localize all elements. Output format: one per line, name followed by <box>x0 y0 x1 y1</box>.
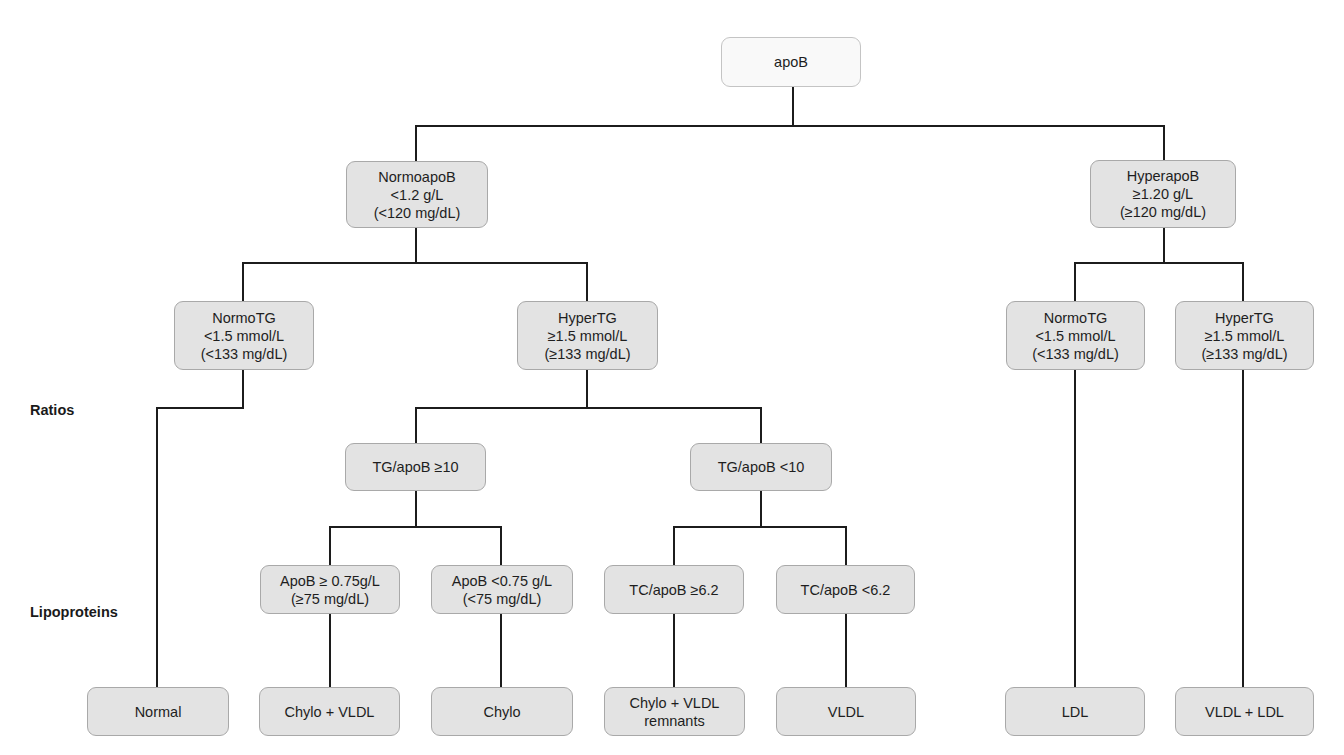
node-label: Chylo + VLDL <box>630 694 720 712</box>
node-threshold-si: <1.5 mmol/L <box>1035 327 1115 345</box>
node-normotg-right: NormoTG <1.5 mmol/L (<133 mg/dL) <box>1006 301 1145 370</box>
node-threshold-conventional: (≥120 mg/dL) <box>1120 203 1206 221</box>
connector-lines <box>0 0 1344 755</box>
node-label: HyperTG <box>558 309 617 327</box>
node-label: ApoB <0.75 g/L <box>452 572 552 590</box>
node-threshold-si: <1.2 g/L <box>391 186 444 204</box>
node-apob-root: apoB <box>721 37 861 87</box>
node-normoapob: NormoapoB <1.2 g/L (<120 mg/dL) <box>346 161 488 228</box>
lipoproteins-label: Lipoproteins <box>30 604 118 620</box>
decision-tree-diagram: Ratios Lipoproteins apoB NormoapoB <1.2 … <box>0 0 1344 755</box>
result-vldl: VLDL <box>776 687 916 736</box>
node-threshold-conventional: (<120 mg/dL) <box>374 204 461 222</box>
node-threshold-conventional: (<75 mg/dL) <box>463 590 542 608</box>
node-tc-apob-lt62: TC/apoB <6.2 <box>776 565 915 614</box>
node-label: NormoTG <box>212 309 276 327</box>
node-label: TG/apoB ≥10 <box>372 458 458 476</box>
node-tc-apob-ge62: TC/apoB ≥6.2 <box>604 565 744 614</box>
node-label: NormoapoB <box>378 168 455 186</box>
node-label: TC/apoB ≥6.2 <box>629 581 718 599</box>
node-label: HyperTG <box>1215 309 1274 327</box>
node-label-line2: remnants <box>644 712 704 730</box>
node-threshold-si: ≥1.5 mmol/L <box>1205 327 1285 345</box>
node-label: HyperapoB <box>1127 167 1200 185</box>
node-hypertg-left: HyperTG ≥1.5 mmol/L (≥133 mg/dL) <box>517 301 658 370</box>
node-hyperapob: HyperapoB ≥1.20 g/L (≥120 mg/dL) <box>1090 160 1236 228</box>
result-chylo-vldl-remnants: Chylo + VLDL remnants <box>604 687 745 736</box>
node-label: VLDL + LDL <box>1205 703 1284 721</box>
node-threshold-conventional: (<133 mg/dL) <box>1032 345 1119 363</box>
ratios-label: Ratios <box>30 402 74 418</box>
node-threshold-si: ≥1.5 mmol/L <box>548 327 628 345</box>
node-label: VLDL <box>828 703 864 721</box>
result-normal: Normal <box>87 687 229 736</box>
result-chylo: Chylo <box>431 687 573 736</box>
node-threshold-si: ≥1.20 g/L <box>1133 185 1193 203</box>
node-threshold-si: <1.5 mmol/L <box>204 327 284 345</box>
node-tg-apob-lt10: TG/apoB <10 <box>690 443 832 491</box>
node-apob-lt075: ApoB <0.75 g/L (<75 mg/dL) <box>431 565 573 614</box>
node-label: Chylo + VLDL <box>285 703 375 721</box>
node-hypertg-right: HyperTG ≥1.5 mmol/L (≥133 mg/dL) <box>1175 301 1314 370</box>
result-vldl-ldl: VLDL + LDL <box>1175 687 1314 736</box>
node-label: ApoB ≥ 0.75g/L <box>280 572 380 590</box>
node-label: Normal <box>135 703 182 721</box>
node-threshold-conventional: (<133 mg/dL) <box>201 345 288 363</box>
node-apob-ge075: ApoB ≥ 0.75g/L (≥75 mg/dL) <box>260 565 400 614</box>
node-label: Chylo <box>483 703 520 721</box>
node-label: NormoTG <box>1044 309 1108 327</box>
node-label: TC/apoB <6.2 <box>801 581 891 599</box>
node-threshold-conventional: (≥133 mg/dL) <box>544 345 630 363</box>
node-tg-apob-ge10: TG/apoB ≥10 <box>345 443 486 491</box>
node-label: LDL <box>1062 703 1089 721</box>
node-threshold-conventional: (≥75 mg/dL) <box>291 590 369 608</box>
result-chylo-vldl: Chylo + VLDL <box>259 687 400 736</box>
result-ldl: LDL <box>1005 687 1145 736</box>
node-label: apoB <box>774 53 808 71</box>
node-normotg-left: NormoTG <1.5 mmol/L (<133 mg/dL) <box>174 301 314 370</box>
node-label: TG/apoB <10 <box>718 458 805 476</box>
node-threshold-conventional: (≥133 mg/dL) <box>1201 345 1287 363</box>
